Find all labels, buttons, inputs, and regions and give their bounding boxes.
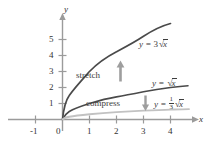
- curve-label-13-radicand: x: [179, 99, 184, 109]
- y-tick-label-4: 4: [49, 51, 54, 60]
- stretch-arrow-icon: [117, 61, 125, 82]
- annotation-stretch: stretch: [76, 71, 100, 80]
- x-tick-label-1: 1: [87, 127, 92, 136]
- curve-label-1-radicand: x: [172, 78, 177, 88]
- y-axis-label: y: [64, 5, 68, 14]
- radical-group-3: √x: [158, 39, 168, 49]
- y-tick-label-5: 5: [49, 35, 54, 44]
- curve-label-sqrt-x: y = √x: [152, 78, 177, 88]
- x-tick-label-4: 4: [168, 127, 173, 136]
- curve-label-one-third-sqrt-x: y = 13√x: [154, 96, 184, 111]
- x-tick-label-0: 0: [56, 127, 61, 136]
- y-tick-label-2: 2: [49, 83, 54, 92]
- radical-group-1: √x: [167, 78, 177, 88]
- curve-label-3-lhs: y =: [139, 39, 154, 49]
- figure-root: y x 5 4 3 2 1 -1 0 1 2 3 4 y = 3√x y = √…: [0, 0, 212, 155]
- curve-label-1-lhs: y =: [152, 78, 167, 88]
- x-tick-label-neg1: -1: [30, 127, 38, 136]
- curve-label-3-radicand: x: [163, 39, 168, 49]
- curve-label-3-sqrt-x: y = 3√x: [139, 39, 168, 49]
- compress-arrow-icon: [142, 96, 149, 112]
- curve-label-13-lhs: y =: [154, 99, 169, 109]
- y-tick-label-1: 1: [49, 99, 54, 108]
- y-axis-arrowhead: [59, 13, 65, 20]
- annotation-compress: compress: [86, 99, 120, 108]
- x-tick-label-3: 3: [141, 127, 146, 136]
- x-axis-arrowhead: [192, 116, 199, 122]
- y-tick-label-3: 3: [49, 67, 54, 76]
- radical-group-13: √x: [174, 99, 184, 109]
- x-tick-label-2: 2: [114, 127, 119, 136]
- x-axis-label: x: [199, 115, 203, 124]
